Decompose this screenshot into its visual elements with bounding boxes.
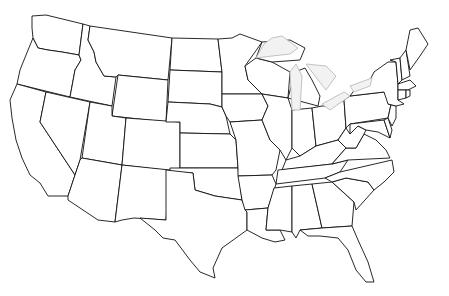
state-iowa: [222, 94, 268, 122]
state-new-mexico: [115, 165, 170, 222]
us-outline-map: [0, 0, 449, 296]
state-maine: [406, 28, 428, 70]
state-north-dakota: [170, 38, 222, 72]
state-connecticut: [398, 90, 406, 100]
state-kansas: [180, 133, 238, 168]
state-colorado: [122, 118, 180, 172]
state-rhode-island: [406, 90, 410, 98]
state-south-dakota: [168, 70, 222, 107]
state-florida: [300, 226, 374, 282]
state-wyoming: [112, 75, 168, 122]
